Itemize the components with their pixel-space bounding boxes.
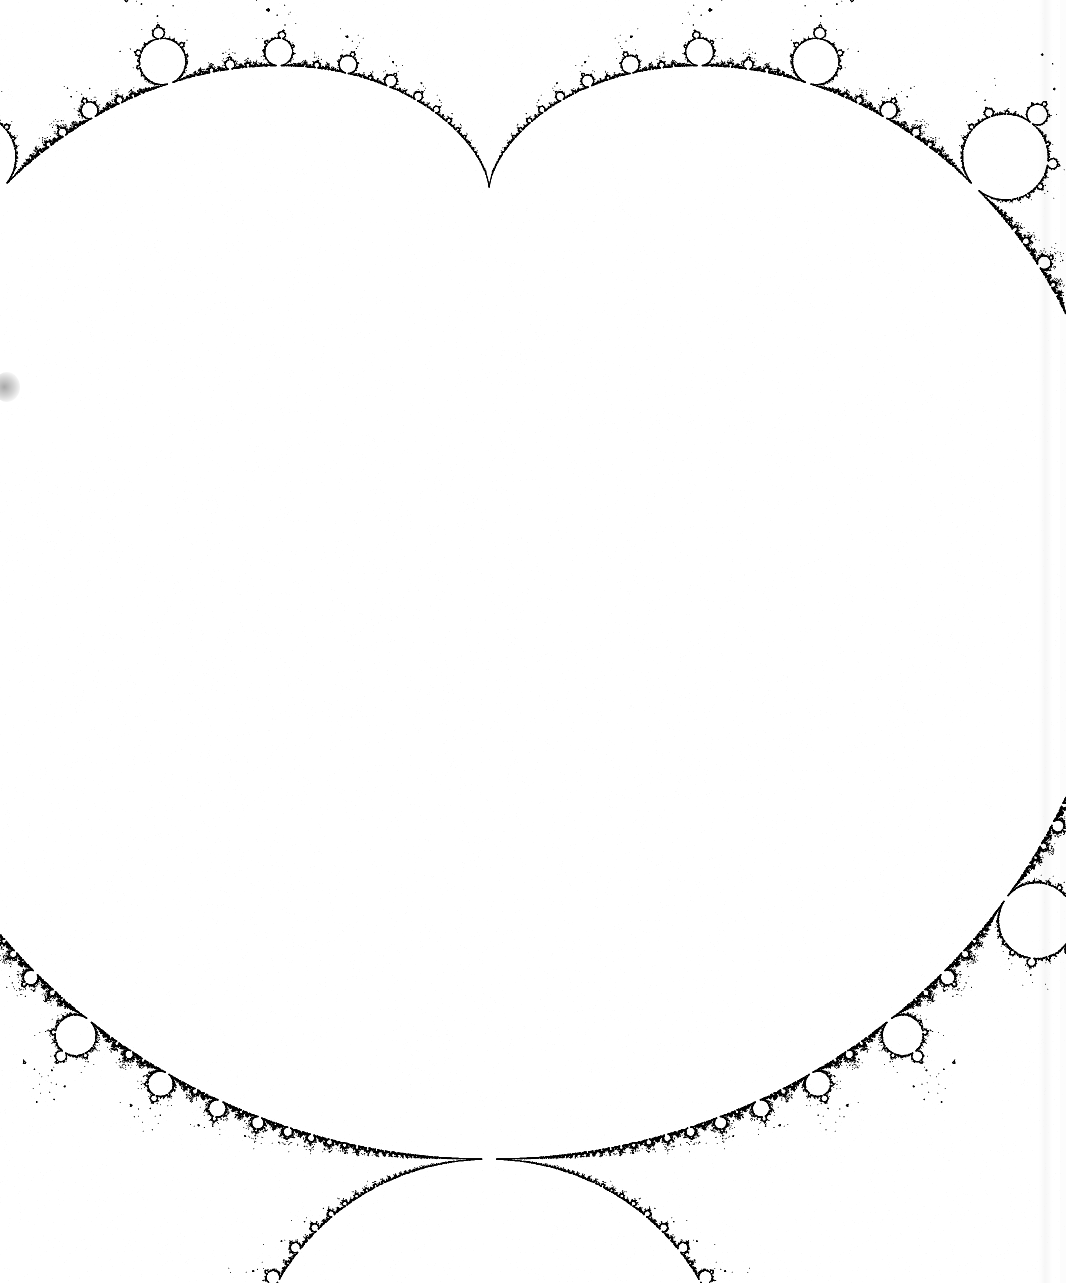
fractal-figure-page xyxy=(0,0,1066,1283)
mandelbrot-set-canvas xyxy=(0,0,1066,1283)
